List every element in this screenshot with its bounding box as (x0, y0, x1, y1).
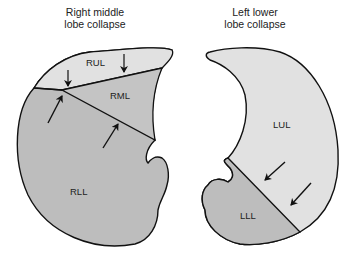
lll-label: LLL (240, 210, 256, 221)
lul-label: LUL (273, 119, 290, 130)
rml-label: RML (110, 90, 130, 101)
left-lung: LUL LLL (202, 48, 338, 245)
rul-label: RUL (86, 57, 105, 68)
lung-diagram: RUL RML RLL LUL LLL (0, 0, 349, 253)
rll-label: RLL (70, 186, 87, 197)
right-lung: RUL RML RLL (17, 48, 172, 246)
